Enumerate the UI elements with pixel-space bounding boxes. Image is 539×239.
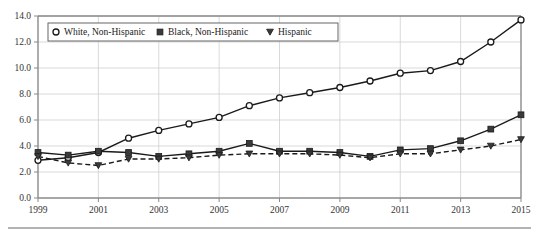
data-point-marker — [458, 138, 464, 144]
y-axis-tick-label: 2.0 — [19, 167, 31, 177]
data-point-marker — [518, 112, 524, 118]
data-point-marker — [427, 68, 433, 74]
y-axis-tick-label: 10.0 — [14, 63, 31, 73]
data-point-marker — [488, 39, 494, 45]
x-axis-tick-label: 2009 — [330, 205, 349, 215]
x-axis-tick-label: 1999 — [29, 205, 48, 215]
y-axis-tick-label: 14.0 — [14, 11, 31, 21]
line-chart: 0.02.04.06.08.010.012.014.01999200120032… — [0, 0, 539, 239]
data-point-marker — [277, 95, 283, 101]
chart-legend: White, Non-HispanicBlack, Non-HispanicHi… — [48, 23, 338, 41]
data-point-marker — [397, 70, 403, 76]
data-point-marker — [95, 148, 101, 154]
data-point-marker — [216, 114, 222, 120]
data-point-marker — [186, 121, 192, 127]
data-point-marker — [458, 59, 464, 65]
data-point-marker — [65, 152, 71, 158]
x-axis-tick-label: 2011 — [391, 205, 410, 215]
chart-container: 0.02.04.06.08.010.012.014.01999200120032… — [0, 0, 539, 239]
x-axis-tick-label: 2005 — [210, 205, 229, 215]
data-point-marker — [156, 127, 162, 133]
y-axis-tick-label: 4.0 — [19, 141, 31, 151]
y-axis-tick-label: 12.0 — [14, 37, 31, 47]
y-axis-tick-label: 6.0 — [19, 115, 31, 125]
y-axis-tick-label: 0.0 — [19, 193, 31, 203]
data-point-marker — [518, 17, 524, 23]
data-point-marker — [126, 135, 132, 141]
legend-label-1: White, Non-Hispanic — [64, 27, 145, 37]
legend-marker-2 — [157, 29, 163, 35]
legend-label-2: Black, Non-Hispanic — [168, 27, 248, 37]
data-point-marker — [367, 78, 373, 84]
data-point-marker — [337, 85, 343, 91]
data-point-marker — [307, 90, 313, 96]
x-axis-tick-label: 2013 — [451, 205, 470, 215]
legend-marker-1 — [53, 29, 59, 35]
data-point-marker — [246, 141, 252, 147]
data-point-marker — [126, 150, 132, 156]
y-axis-tick-label: 8.0 — [19, 89, 31, 99]
x-axis-tick-label: 2007 — [270, 205, 289, 215]
legend-label-3: Hispanic — [278, 27, 312, 37]
x-axis-tick-label: 2001 — [89, 205, 108, 215]
x-axis-tick-label: 2003 — [149, 205, 168, 215]
data-point-marker — [246, 103, 252, 109]
x-axis-tick-label: 2015 — [512, 205, 531, 215]
data-point-marker — [488, 126, 494, 132]
